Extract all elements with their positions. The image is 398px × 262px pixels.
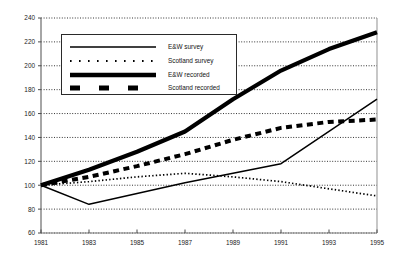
line-chart: 6080100120140160180200220240 19811983198… — [0, 0, 398, 262]
y-tick-label: 60 — [28, 229, 36, 236]
x-tick-label: 1981 — [34, 239, 49, 246]
x-tick-label: 1983 — [82, 239, 97, 246]
y-tick-label: 180 — [24, 86, 35, 93]
y-tick-label: 220 — [24, 38, 35, 45]
y-tick-label: 140 — [24, 134, 35, 141]
x-tick-label: 1991 — [274, 239, 289, 246]
y-tick-label: 240 — [24, 14, 35, 21]
legend-label: Scotland survey — [168, 57, 214, 65]
x-tick-label: 1995 — [370, 239, 385, 246]
chart-legend: E&W surveyScotland surveyE&W recordedSco… — [62, 35, 237, 95]
legend-label: Scotland recorded — [168, 84, 220, 91]
legend-label: E&W survey — [168, 43, 204, 51]
y-tick-label: 120 — [24, 158, 35, 165]
x-tick-label: 1993 — [322, 239, 337, 246]
x-tick-label: 1987 — [178, 239, 193, 246]
y-tick-label: 100 — [24, 182, 35, 189]
y-tick-label: 160 — [24, 110, 35, 117]
legend-label: E&W recorded — [168, 71, 210, 78]
x-tick-label: 1989 — [226, 239, 241, 246]
chart-canvas: 6080100120140160180200220240 19811983198… — [0, 0, 398, 262]
y-tick-label: 200 — [24, 62, 35, 69]
x-tick-label: 1985 — [130, 239, 145, 246]
y-tick-label: 80 — [28, 206, 36, 213]
